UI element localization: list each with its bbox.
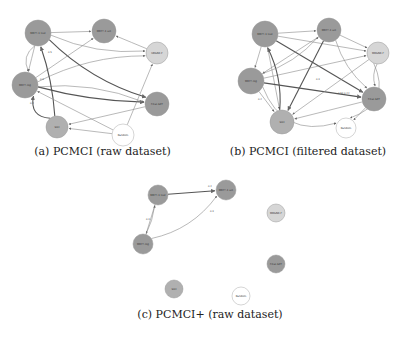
- node-label: MBF?-1 test: [257, 33, 272, 36]
- node-label: Random: [236, 295, 247, 298]
- edge-label: 0.52 0.44: [338, 92, 350, 95]
- node-label: Slot: [172, 288, 177, 291]
- graph-node: URGNE-F: [146, 42, 168, 64]
- graph-edge: [127, 64, 152, 125]
- graph-node: MRGNE-F: [367, 42, 389, 64]
- node-label: Slot: [280, 121, 285, 124]
- node-label: Slot: [55, 126, 60, 129]
- graph-edge: [28, 46, 34, 72]
- nodes-layer: MBF?-1 testMBF?-1 setURGNE-FMBF?-logFina…: [12, 18, 389, 305]
- node-label: Final-SET: [270, 263, 282, 266]
- edge-label: 0.3: [210, 210, 214, 213]
- node-label: MBF?-1 test: [30, 32, 45, 35]
- graph-edge: [259, 91, 274, 111]
- edge-label: 0.5: [48, 51, 52, 54]
- graph-node: MBF?-1 test: [148, 185, 168, 205]
- node-label: Final-SET: [151, 103, 163, 106]
- graph-edge: [69, 128, 112, 133]
- node-label: Random: [341, 127, 352, 130]
- graph-edge: [293, 59, 370, 114]
- graph-edge: [51, 31, 91, 32]
- graph-node: Final-SET: [362, 87, 386, 111]
- node-label: MBF?-log: [137, 243, 149, 246]
- edge-label: 0.2: [208, 185, 212, 188]
- node-label: MBF?-log: [19, 84, 31, 87]
- graph-node: Random: [112, 124, 134, 146]
- graph-node: MBF?-log: [238, 68, 264, 94]
- graph-edge: [340, 35, 367, 48]
- edges-layer: 0.50.30.40.52 0.440.30.40.20.30.3: [26, 31, 379, 239]
- edge-label: 0.3: [146, 218, 150, 221]
- edge-label: 0.3: [40, 78, 44, 81]
- graph-node: MRGNE-F: [267, 204, 285, 222]
- graph-node: MBF?-log: [12, 72, 38, 98]
- node-label: Final-SET: [368, 98, 380, 101]
- graph-edge: [41, 47, 55, 116]
- node-label: Random: [118, 134, 129, 137]
- graph-edge: [38, 56, 146, 82]
- graph-node: Final-SET: [267, 255, 285, 273]
- node-label: MBF?-1 set: [97, 30, 111, 33]
- graph-edge: [168, 191, 215, 194]
- graph-node: MBF?-1 test: [25, 20, 51, 46]
- graph-node: Slot: [270, 110, 294, 134]
- graph-edge: [26, 46, 35, 72]
- node-label: MRGNE-F: [372, 52, 385, 55]
- edge-label: 0.3: [316, 78, 320, 81]
- graph-node: MBF?-1 test: [252, 21, 278, 47]
- graph-node: Slot: [165, 280, 183, 298]
- node-label: MBF?-1 test: [150, 194, 165, 197]
- graph-node: MBF?-1 set: [317, 18, 341, 42]
- graph-node: MBF?-log: [133, 234, 153, 254]
- graph-edge: [33, 96, 51, 118]
- node-label: MBF?-1 set: [219, 189, 233, 192]
- node-label: MRGNE-F: [270, 212, 283, 215]
- graph-node: Random: [336, 118, 356, 138]
- graph-node: Random: [232, 287, 250, 305]
- graph-node: Final-SET: [145, 92, 169, 116]
- graph-edge: [69, 107, 146, 125]
- node-label: MBF?-1 set: [322, 29, 336, 32]
- graph-edge: [278, 31, 316, 33]
- edge-label: 0.4: [30, 102, 34, 105]
- node-label: MBF?-log: [245, 80, 257, 83]
- graph-edge: [255, 46, 261, 67]
- graph-node: MBF?-1 set: [92, 19, 116, 43]
- graph-edge: [295, 102, 363, 119]
- edge-label: 0.4: [258, 98, 262, 101]
- graph-node: MBF?-1 set: [216, 180, 236, 200]
- graph-node: Slot: [46, 116, 68, 138]
- node-label: URGNE-F: [151, 52, 163, 55]
- causal-graphs: 0.50.30.40.52 0.440.30.40.20.30.3 MBF?-1…: [0, 0, 411, 342]
- graph-edge: [116, 36, 147, 49]
